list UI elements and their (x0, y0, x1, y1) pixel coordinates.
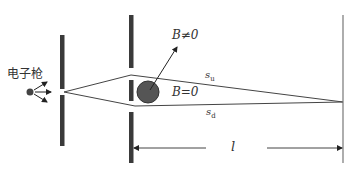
first-plate-lower (60, 95, 65, 146)
second-plate-lower (129, 112, 134, 163)
beam-upper-path (64, 75, 343, 102)
solenoid-coil (137, 81, 159, 103)
beam-lower-path (64, 92, 343, 106)
first-plate-upper (60, 35, 65, 89)
distance-label: l (231, 139, 235, 154)
electron-gun-label: 电子枪 (7, 64, 43, 81)
emission-arrows-icon (34, 82, 51, 102)
field-off-label: B=0 (172, 85, 199, 99)
path-upper-label: su (205, 69, 215, 83)
second-plate-upper (129, 15, 134, 68)
field-arrow-icon (150, 47, 177, 90)
second-plate-middle (129, 80, 134, 101)
electron-source-dot (27, 89, 34, 96)
path-lower-subscript: d (211, 112, 215, 120)
path-lower-label: sd (206, 106, 216, 120)
field-on-label: B≠0 (172, 28, 199, 42)
path-upper-subscript: u (210, 75, 215, 83)
